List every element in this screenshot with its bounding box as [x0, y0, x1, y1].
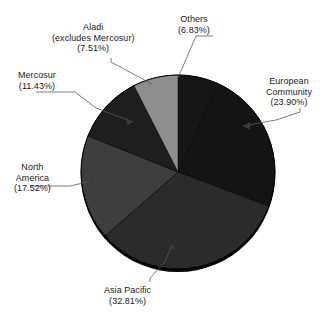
slice-label-aladi-value: (7.51%): [52, 43, 134, 54]
slice-label-asia-pacific: Asia Pacific (32.81%): [104, 285, 151, 306]
slice-label-european-name1: European: [266, 76, 312, 87]
slice-label-aladi: Aladi (excludes Mercosur) (7.51%): [52, 22, 134, 54]
slice-label-asia-value: (32.81%): [104, 296, 151, 307]
slice-label-asia-name: Asia Pacific: [104, 285, 151, 296]
slice-label-aladi-name: Aladi: [52, 22, 134, 33]
slice-label-european-value: (23.90%): [266, 97, 312, 108]
slice-label-north-value: (17.52%): [14, 183, 51, 194]
slice-label-european-community: European Community (23.90%): [266, 76, 312, 108]
slice-label-north-america: North America (17.52%): [14, 162, 51, 194]
slice-label-european-name2: Community: [266, 87, 312, 98]
slice-label-others-name: Others: [178, 14, 210, 25]
slice-label-others-value: (6.83%): [178, 25, 210, 36]
slice-label-mercosur-name: Mercosur: [18, 70, 56, 81]
slice-label-others: Others (6.83%): [178, 14, 210, 35]
pie-chart: Others (6.83%) Aladi (excludes Mercosur)…: [0, 0, 334, 316]
slice-label-aladi-qualifier: (excludes Mercosur): [52, 33, 134, 44]
slice-label-north-name2: America: [14, 173, 51, 184]
slice-label-north-name1: North: [14, 162, 51, 173]
pie-slices: [81, 75, 275, 269]
slice-label-mercosur: Mercosur (11.43%): [18, 70, 56, 91]
pie-chart-graphic: [0, 0, 334, 316]
slice-label-mercosur-value: (11.43%): [18, 81, 56, 92]
leader-line-others: [178, 36, 213, 78]
